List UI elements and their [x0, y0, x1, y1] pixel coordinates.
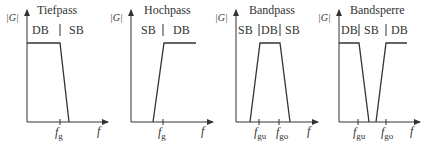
band-label-db: DB [173, 23, 190, 37]
band-label-db-left: DB [341, 23, 358, 37]
y-axis-label: |G| [215, 12, 228, 23]
x-axis-label: f [97, 124, 102, 138]
panel-title: Bandsperre [350, 3, 405, 17]
y-axis-label: |G| [110, 12, 123, 23]
x-axis-label: f [201, 124, 206, 138]
fg-label: fg [158, 125, 166, 141]
band-label-db: DB [32, 23, 49, 37]
bandstop-curve-right [376, 43, 407, 122]
band-label-sb: SB [364, 23, 379, 37]
x-axis-label: f [410, 124, 415, 138]
band-label-sb-right: SB [285, 23, 300, 37]
x-axis-label: f [307, 124, 312, 138]
lowpass-curve [27, 43, 69, 122]
band-label-sb: SB [141, 23, 156, 37]
filter-types-diagram: |G| Tiefpass DB SB fg f |G| Hochpass SB … [0, 0, 430, 147]
fgo-label: fgo [276, 125, 289, 141]
panel-title: Tiefpass [37, 3, 78, 17]
y-axis-label: |G| [6, 12, 19, 23]
band-label-db-right: DB [391, 23, 408, 37]
panel-title: Hochpass [144, 3, 191, 17]
band-label-db: DB [261, 23, 278, 37]
panel-bandsperre: |G| Bandsperre DB SB DB fgu fgo f [318, 3, 420, 141]
fgu-label: fgu [353, 125, 366, 141]
band-label-sb-left: SB [238, 23, 253, 37]
highpass-curve [153, 43, 196, 122]
panel-title: Bandpass [249, 3, 295, 17]
panel-bandpass: |G| Bandpass SB DB SB fgu fgo f [215, 3, 318, 141]
bandpass-curve [250, 43, 290, 122]
bandstop-curve-left [339, 43, 369, 122]
panel-hochpass: |G| Hochpass SB DB fg f [110, 3, 213, 141]
fgo-label: fgo [381, 125, 394, 141]
fg-label: fg [55, 125, 63, 141]
y-axis-label: |G| [318, 12, 331, 23]
band-label-sb: SB [69, 23, 84, 37]
panel-tiefpass: |G| Tiefpass DB SB fg f [6, 3, 108, 141]
fgu-label: fgu [254, 125, 267, 141]
